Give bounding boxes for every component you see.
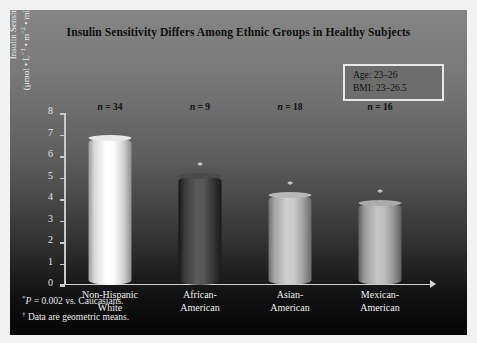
y-tick-label-5: 5 — [48, 171, 53, 181]
annotation-bmi: BMI: 23–26.5 — [353, 82, 436, 95]
bar-slot-1: n = 34 — [65, 113, 155, 285]
y-tick-label-1: 1 — [48, 257, 53, 267]
footnote-significance-text: = 0.002 vs. Caucasians. — [31, 296, 123, 306]
chart-title: Insulin Sensitivity Differs Among Ethnic… — [10, 26, 467, 38]
bar-2[interactable] — [179, 176, 222, 285]
x-category-label-4-line1: Mexican- — [335, 288, 425, 301]
bar-slot-4: n = 16* — [335, 113, 425, 285]
significance-marker-3: * — [245, 179, 335, 190]
bar-1[interactable] — [89, 138, 132, 285]
y-tick-label-2: 2 — [48, 235, 53, 245]
y-tick-label-6: 6 — [48, 149, 53, 159]
footnote-geometric-means-text: Data are geometric means. — [28, 312, 129, 322]
bar-3[interactable] — [269, 195, 312, 285]
bar-slot-3: n = 18* — [245, 113, 335, 285]
footnotes: *P = 0.002 vs. Caucasians. † Data are ge… — [22, 293, 129, 325]
y-axis-title-units: (μmol • L−1 • m−2 • min−1 • pmol−1 • L−1… — [19, 10, 32, 110]
bar-4[interactable] — [359, 203, 402, 285]
slide-canvas: Insulin Sensitivity Differs Among Ethnic… — [0, 0, 477, 343]
x-category-label-2: African-American — [155, 288, 245, 314]
annotation-age: Age: 23–26 — [353, 69, 436, 82]
chart-figure: Insulin Sensitivity Differs Among Ethnic… — [10, 10, 467, 335]
y-tick-0: 0 — [60, 285, 65, 287]
bar-n-label-3: n = 18 — [245, 102, 335, 112]
bar-series: n = 34n = 9*n = 18*n = 16* — [65, 113, 424, 285]
bar-cap-1 — [89, 135, 132, 141]
bar-cap-3 — [269, 192, 312, 198]
y-tick-label-4: 4 — [48, 192, 53, 202]
x-category-label-3-line1: Asian- — [245, 288, 335, 301]
footnote-geometric-means: † Data are geometric means. — [22, 309, 129, 325]
significance-marker-2: * — [155, 160, 245, 171]
bar-cap-2 — [179, 173, 222, 179]
bar-n-label-4: n = 16 — [335, 102, 425, 112]
y-tick-label-7: 7 — [48, 128, 53, 138]
y-axis-title-line1: Insulin Sensitivity Index — [10, 10, 19, 110]
bar-n-label-1: n = 34 — [65, 102, 155, 112]
x-category-label-4: Mexican-American — [335, 288, 425, 314]
x-category-label-3-line2: American — [245, 301, 335, 314]
subject-characteristics-box: Age: 23–26 BMI: 23–26.5 — [343, 64, 444, 101]
y-tick-label-0: 0 — [48, 278, 53, 288]
x-category-label-2-line1: African- — [155, 288, 245, 301]
y-tick-label-3: 3 — [48, 214, 53, 224]
plot-area: 8 7 6 5 4 3 2 1 0 — [64, 113, 424, 285]
x-category-label-3: Asian-American — [245, 288, 335, 314]
x-category-label-4-line2: American — [335, 301, 425, 314]
y-tick-label-8: 8 — [48, 106, 53, 116]
bar-cap-4 — [359, 200, 402, 206]
bar-slot-2: n = 9* — [155, 113, 245, 285]
bar-n-label-2: n = 9 — [155, 102, 245, 112]
y-axis-title: Insulin Sensitivity Index (μmol • L−1 • … — [10, 10, 33, 110]
x-category-label-2-line2: American — [155, 301, 245, 314]
x-axis-arrow-icon — [430, 280, 436, 288]
footnote-significance: *P = 0.002 vs. Caucasians. — [22, 293, 129, 309]
significance-marker-4: * — [335, 187, 425, 198]
footnote-mark-dagger: † — [22, 310, 26, 318]
